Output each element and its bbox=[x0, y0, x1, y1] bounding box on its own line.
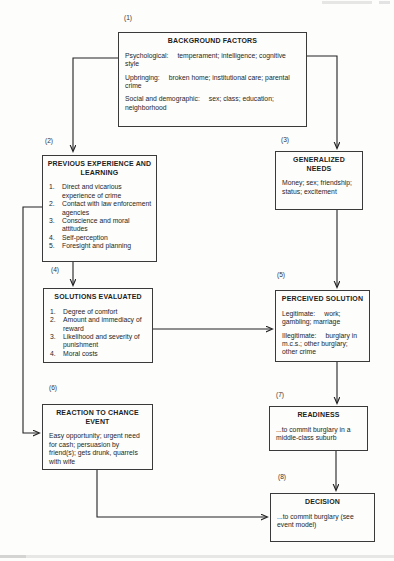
box-number-label-4: (4) bbox=[51, 266, 59, 273]
box-number-label-1: (1) bbox=[124, 14, 132, 21]
box-number-label-3: (3) bbox=[281, 136, 289, 143]
flow-box-generalized-needs: GENERALIZED NEEDS Money; sex; friendship… bbox=[275, 151, 363, 210]
connector-1-to-3 bbox=[307, 56, 337, 148]
list-item: 2.Amount and immediacy of reward bbox=[50, 316, 148, 333]
box-title: SOLUTIONS EVALUATED bbox=[47, 293, 149, 302]
box-number-label-2: (2) bbox=[45, 137, 53, 144]
box-body-text: Money; sex; friendship; status; exciteme… bbox=[282, 179, 357, 196]
box-title: REACTION TO CHANCE EVENT bbox=[46, 409, 149, 426]
list-item-text: Degree of comfort bbox=[63, 308, 148, 316]
flow-box-perceived-solution: PERCEIVED SOLUTION Legitimate:work; gamb… bbox=[275, 290, 370, 362]
list-item-text: Amount and immediacy of reward bbox=[63, 316, 148, 333]
paragraph-lead: Illegitimate: bbox=[282, 332, 316, 339]
paragraph-legitimate: Legitimate:work; gambling; marriage bbox=[282, 310, 364, 327]
flow-box-background-factors: BACKGROUND FACTORS Psychological:tempera… bbox=[118, 32, 307, 127]
list-item-number: 1. bbox=[50, 308, 63, 316]
list-item-number: 4. bbox=[49, 234, 62, 242]
flow-box-decision: DECISION ...to commit burglary (see even… bbox=[270, 493, 375, 542]
list-item-text: Contact with law enforcement agencies bbox=[62, 200, 152, 217]
box-body-text: Easy opportunity; urgent need for cash; … bbox=[49, 432, 147, 466]
list-item-text: Conscience and moral attitudes bbox=[62, 217, 152, 234]
paragraph-psychological: Psychological:temperament; intelligence;… bbox=[125, 52, 301, 69]
list-item: 4.Moral costs bbox=[50, 350, 148, 358]
connector-1-to-2 bbox=[73, 58, 118, 151]
list-item-text: Likelihood and severity of punishment bbox=[63, 333, 148, 350]
list-item-number: 2. bbox=[49, 200, 62, 217]
paragraph-upbringing: Upbringing:broken home; institutional ca… bbox=[125, 74, 301, 91]
list-item-number: 3. bbox=[50, 333, 63, 350]
flow-box-previous-experience: PREVIOUS EXPERIENCE AND LEARNING 1.Direc… bbox=[42, 155, 157, 262]
box-title: READINESS bbox=[273, 411, 364, 420]
connector-6-to-8 bbox=[97, 470, 267, 517]
list-item-number: 2. bbox=[50, 316, 63, 333]
box-body-text: ...to commit burglary (see event model) bbox=[277, 513, 369, 530]
box-title: GENERALIZED NEEDS bbox=[285, 156, 353, 173]
list-item: 3.Conscience and moral attitudes bbox=[49, 217, 152, 234]
list-item-text: Foresight and planning bbox=[62, 242, 152, 250]
paragraph-social-demographic: Social and demographic:sex; class; educa… bbox=[125, 95, 301, 112]
scanned-flowchart-page: (1) (2) (3) (4) (5) (6) (7) (8) BACKGROU… bbox=[0, 0, 394, 561]
list-item-number: 4. bbox=[50, 350, 63, 358]
paragraph-lead: Legitimate: bbox=[282, 310, 315, 317]
list-item-text: Direct and vicarious experience of crime bbox=[62, 183, 152, 200]
box-title: DECISION bbox=[274, 498, 371, 507]
paragraph-lead: Social and demographic: bbox=[125, 95, 200, 102]
list-item-text: Moral costs bbox=[63, 350, 148, 358]
list-item: 1.Direct and vicarious experience of cri… bbox=[49, 183, 152, 200]
list-item: 5.Foresight and planning bbox=[49, 242, 152, 250]
list-item-number: 3. bbox=[49, 217, 62, 234]
list-item-text: Self-perception bbox=[62, 234, 152, 242]
paragraph-illegitimate: Illegitimate:burglary in m.c.s.; other b… bbox=[282, 332, 364, 357]
box-number-label-7: (7) bbox=[276, 391, 284, 398]
box-title: PERCEIVED SOLUTION bbox=[279, 295, 366, 304]
list-item-number: 1. bbox=[49, 183, 62, 200]
box-number-label-6: (6) bbox=[49, 384, 57, 391]
flow-box-solutions-evaluated: SOLUTIONS EVALUATED 1.Degree of comfort … bbox=[43, 288, 153, 363]
list-item-number: 5. bbox=[49, 242, 62, 250]
connector-2-to-6 bbox=[23, 207, 42, 433]
box-title: PREVIOUS EXPERIENCE AND LEARNING bbox=[46, 160, 153, 177]
list-item: 2.Contact with law enforcement agencies bbox=[49, 200, 152, 217]
box-number-label-5: (5) bbox=[277, 271, 285, 278]
box-number-label-8: (8) bbox=[278, 473, 286, 480]
flow-box-reaction-to-chance-event: REACTION TO CHANCE EVENT Easy opportunit… bbox=[42, 404, 153, 470]
list-item: 1.Degree of comfort bbox=[50, 308, 148, 316]
paragraph-lead: Psychological: bbox=[125, 52, 168, 59]
list-item: 3.Likelihood and severity of punishment bbox=[50, 333, 148, 350]
list-item: 4.Self-perception bbox=[49, 234, 152, 242]
flow-box-readiness: READINESS ...to commit burglary in a mid… bbox=[269, 406, 368, 451]
box-body-text: ...to commit burglary in a middle-class … bbox=[276, 426, 362, 443]
box-title: BACKGROUND FACTORS bbox=[122, 37, 303, 46]
paragraph-lead: Upbringing: bbox=[125, 74, 160, 81]
